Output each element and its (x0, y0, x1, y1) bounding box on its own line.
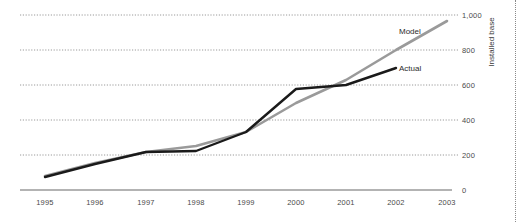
y-tick-0: 0 (462, 186, 502, 195)
y-tick-1000: 1,000 (462, 11, 502, 20)
chart-figure: 1995 1996 1997 1998 1999 2000 2001 2002 … (0, 0, 520, 222)
y-axis-title: Installed base (487, 0, 496, 92)
x-tick-1996: 1996 (75, 198, 115, 207)
series-label-actual: Actual (399, 64, 421, 73)
x-tick-2001: 2001 (326, 198, 366, 207)
series-label-model: Model (399, 27, 421, 36)
line-chart-canvas (0, 0, 520, 222)
figure-right-border (515, 0, 516, 222)
y-tick-800: 800 (462, 46, 502, 55)
y-tick-200: 200 (462, 151, 502, 160)
x-tick-1995: 1995 (25, 198, 65, 207)
series-line-model (45, 21, 447, 176)
x-tick-1997: 1997 (126, 198, 166, 207)
y-tick-600: 600 (462, 81, 502, 90)
x-tick-2000: 2000 (276, 198, 316, 207)
x-tick-2003: 2003 (427, 198, 467, 207)
x-tick-1999: 1999 (226, 198, 266, 207)
x-tick-1998: 1998 (176, 198, 216, 207)
x-tick-2002: 2002 (376, 198, 416, 207)
series-line-actual (45, 68, 396, 177)
y-tick-400: 400 (462, 116, 502, 125)
